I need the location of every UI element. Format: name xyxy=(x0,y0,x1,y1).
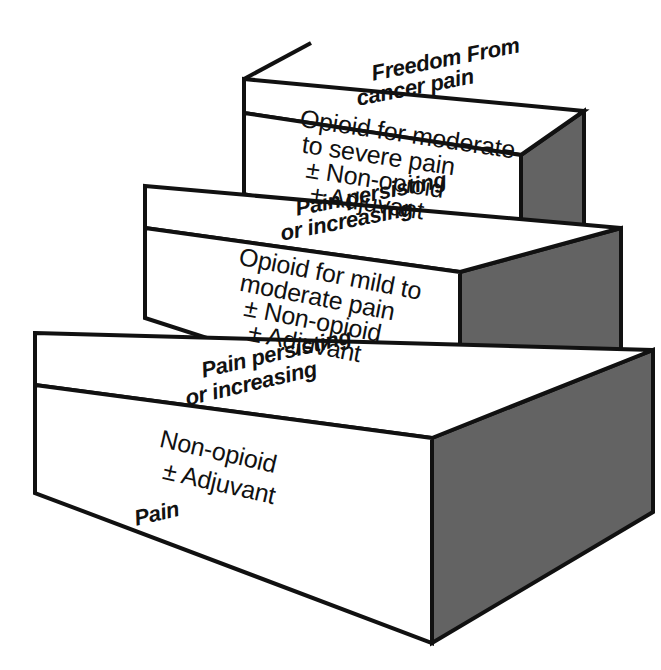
who-analgesic-ladder-figure: Freedom From cancer pain Opioid for mode… xyxy=(0,0,661,670)
ladder-diagram: Freedom From cancer pain Opioid for mode… xyxy=(0,0,661,670)
step-1-block xyxy=(35,333,653,643)
step-3-top-guide-line xyxy=(244,43,311,79)
